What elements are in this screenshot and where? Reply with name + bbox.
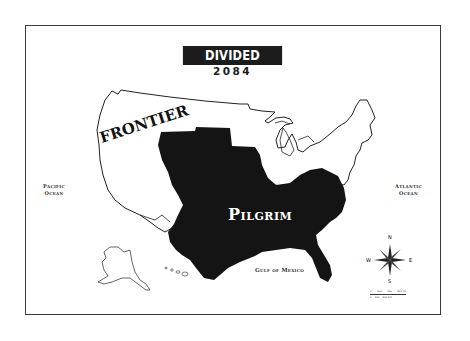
region-label-pilgrim: Pilgrim [228,205,292,224]
scale-bar: 0 100 200 300 mi 0 200 400 km [370,290,406,300]
compass-e: E [409,257,412,263]
compass-w: W [366,257,371,263]
compass-rose: N S W E [370,240,410,280]
pacific-ocean-label: Pacific Ocean [43,183,65,197]
atlantic-ocean-label: Atlantic Ocean [395,183,422,197]
compass-s: S [388,278,391,284]
hawaii [165,267,188,276]
compass-n: N [388,234,392,240]
gulf-of-mexico-label: Gulf of Mexico [255,267,304,273]
compass-star-icon [370,240,410,280]
alaska [98,247,150,290]
